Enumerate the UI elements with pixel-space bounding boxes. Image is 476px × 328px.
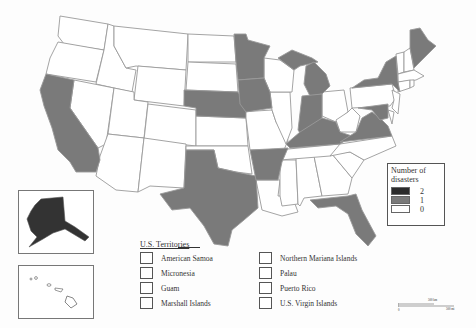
scale-label-km: 500 km <box>428 298 437 302</box>
territory-label: Palau <box>280 269 297 278</box>
territory-item: U.S. Virgin Islands <box>259 297 337 309</box>
state-rhode-island <box>410 80 414 88</box>
territory-item: Marshall Islands <box>140 297 211 309</box>
legend-label-2: 2 <box>420 187 424 196</box>
territory-label: Micronesia <box>161 269 195 278</box>
state-mississippi <box>280 160 298 206</box>
legend-title: Number of disasters <box>391 166 441 184</box>
territory-item: Guam <box>140 282 179 294</box>
legend: Number of disasters 2 1 0 <box>387 163 445 226</box>
hawaii-inset <box>18 265 94 319</box>
territory-label: American Samoa <box>161 254 213 263</box>
state-alaska <box>27 197 89 247</box>
legend-swatch-2 <box>391 187 410 195</box>
alaska-inset <box>18 190 94 254</box>
territories-title-underline <box>178 247 200 248</box>
hawaii-shape <box>19 266 93 318</box>
scale-label-origin: 0 <box>398 308 400 312</box>
territory-item: American Samoa <box>140 252 213 264</box>
legend-row-0: 0 <box>391 205 441 213</box>
legend-label-0: 0 <box>420 205 424 214</box>
hawaii-island <box>47 284 51 287</box>
state-north-dakota <box>188 34 236 62</box>
hawaii-island <box>30 278 32 280</box>
territory-box <box>140 267 153 279</box>
territory-item: Palau <box>259 267 297 279</box>
hawaii-island <box>55 288 63 292</box>
territory-label: Northern Mariana Islands <box>280 254 357 263</box>
state-delaware <box>388 110 394 124</box>
legend-row-2: 2 <box>391 187 441 195</box>
state-florida <box>310 194 376 246</box>
legend-label-1: 1 <box>420 196 424 205</box>
scale-label-mi: 500 mi <box>446 307 454 311</box>
state-new-jersey <box>392 90 400 114</box>
legend-row-1: 1 <box>391 196 441 204</box>
state-kansas <box>196 116 248 146</box>
legend-swatch-1 <box>391 196 410 204</box>
hawaii-big-island <box>65 296 77 308</box>
territory-label: Guam <box>161 284 179 293</box>
territory-box <box>140 297 153 309</box>
territory-item: Micronesia <box>140 267 195 279</box>
scale-bar: 500 km 500 mi 0 <box>398 300 456 312</box>
territory-label: U.S. Virgin Islands <box>280 299 337 308</box>
territory-box <box>140 282 153 294</box>
state-montana <box>114 26 188 70</box>
state-maine <box>410 28 436 68</box>
state-michigan-lower <box>304 62 330 96</box>
territory-box <box>259 252 272 264</box>
hawaii-island <box>35 277 38 280</box>
territory-box <box>140 252 153 264</box>
territory-box <box>259 267 272 279</box>
territory-box <box>259 282 272 294</box>
territory-item: Northern Mariana Islands <box>259 252 357 264</box>
alaska-shape <box>19 191 93 253</box>
legend-swatch-0 <box>391 205 410 213</box>
state-wyoming <box>134 66 186 106</box>
territory-label: Puerto Rico <box>280 284 316 293</box>
territory-item: Puerto Rico <box>259 282 316 294</box>
territory-box <box>259 297 272 309</box>
state-new-mexico <box>138 138 186 192</box>
territory-label: Marshall Islands <box>161 299 211 308</box>
state-south-dakota <box>186 62 238 92</box>
